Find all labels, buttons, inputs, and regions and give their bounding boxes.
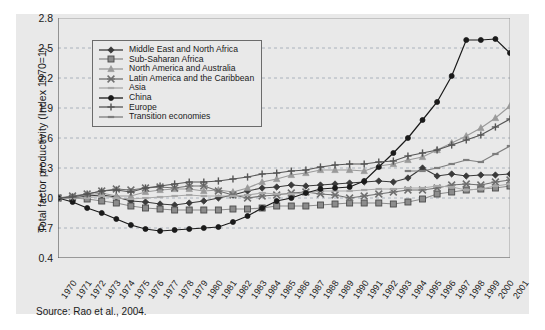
y-tick-label: 0.4	[38, 252, 53, 264]
legend-marker-icon	[98, 112, 124, 122]
figure-container: Total factor productivity (Index 1970=1)…	[0, 0, 545, 330]
legend-marker-icon	[98, 54, 124, 64]
cropped-top-text	[0, 0, 545, 7]
x-tick-labels: 1970197119721973197419751976197719781979…	[58, 262, 510, 306]
chart-legend: Middle East and North AfricaSub-Saharan …	[92, 40, 262, 127]
x-tick-label: 1977	[161, 278, 181, 300]
y-tick-label: 1.3	[38, 162, 53, 174]
y-tick-label: 1.9	[38, 102, 53, 114]
legend-item: Latin America and the Caribbean	[98, 74, 254, 84]
legend-marker-icon	[98, 93, 124, 103]
legend-marker-icon	[98, 64, 124, 74]
y-tick-label: 1.6	[38, 132, 53, 144]
chart-panel: Total factor productivity (Index 1970=1)…	[16, 14, 529, 314]
legend-label: Transition economies	[129, 112, 210, 122]
x-tick-label: 1994	[409, 278, 429, 300]
legend-marker-icon	[98, 45, 124, 55]
legend-marker-icon	[98, 83, 124, 93]
source-note: Source: Rao et al., 2004.	[36, 306, 147, 317]
legend-item: Transition economies	[98, 112, 254, 122]
legend-label: Latin America and the Caribbean	[129, 74, 254, 84]
x-tick-label: 1982	[234, 278, 254, 300]
x-tick-label: 1989	[336, 278, 356, 300]
y-tick-label: 0.7	[38, 222, 53, 234]
legend-marker-icon	[98, 102, 124, 112]
y-tick-label: 2.5	[38, 42, 53, 54]
y-tick-label: 1.0	[38, 192, 53, 204]
legend-item: China	[98, 93, 254, 103]
x-tick-label: 1970	[59, 278, 79, 300]
x-tick-label: 2001	[511, 278, 531, 300]
y-tick-label: 2.8	[38, 12, 53, 24]
y-tick-label: 2.2	[38, 72, 53, 84]
legend-marker-icon	[98, 74, 124, 84]
legend-item: Asia	[98, 83, 254, 93]
